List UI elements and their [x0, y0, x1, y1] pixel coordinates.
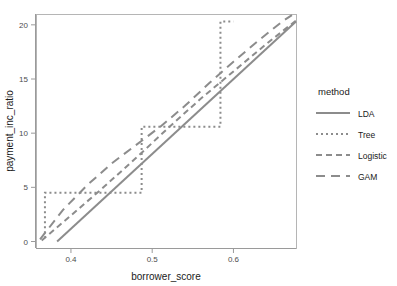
y-tick-label: 15 — [19, 75, 28, 84]
legend-label-logistic: Logistic — [358, 151, 388, 161]
legend-label-tree: Tree — [358, 130, 375, 140]
y-axis-title: payment_inc_ratio — [4, 90, 15, 172]
legend-label-lda: LDA — [358, 109, 375, 119]
x-axis-title: borrower_score — [131, 271, 201, 282]
chart-screenshot: 0.40.50.6 05101520 borrower_score paymen… — [0, 0, 397, 286]
x-tick-label: 0.5 — [147, 255, 159, 264]
chart-canvas: 0.40.50.6 05101520 borrower_score paymen… — [0, 0, 397, 286]
legend-title: method — [318, 86, 350, 97]
y-tick-label: 0 — [24, 238, 29, 247]
chart-background — [0, 0, 397, 286]
x-tick-label: 0.4 — [65, 255, 77, 264]
y-tick-label: 20 — [19, 21, 28, 30]
y-tick-label: 10 — [19, 129, 28, 138]
y-tick-label: 5 — [24, 183, 29, 192]
x-tick-label: 0.6 — [228, 255, 240, 264]
legend-label-gam: GAM — [358, 172, 377, 182]
